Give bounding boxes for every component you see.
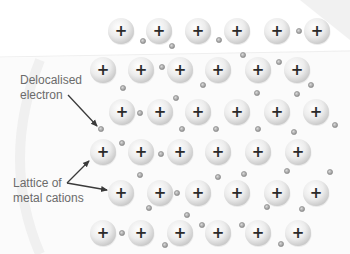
electron-icon — [200, 82, 205, 87]
cation-plus-sign: + — [135, 143, 148, 161]
cation-plus-sign: + — [192, 22, 205, 40]
electron-icon — [294, 91, 299, 96]
lattice-label-line1: Lattice of — [13, 176, 84, 191]
electron-icon — [158, 151, 163, 156]
electron-icon — [255, 126, 260, 131]
electron-icon — [173, 95, 178, 100]
cation-plus-sign: + — [271, 184, 284, 202]
cation-plus-sign: + — [310, 184, 323, 202]
cation-plus-sign: + — [271, 22, 284, 40]
cation-plus-sign: + — [311, 22, 324, 40]
cation-icon: + — [146, 18, 173, 45]
cation-plus-sign: + — [212, 61, 225, 79]
cation-icon: + — [264, 18, 291, 45]
electron-icon — [140, 38, 145, 43]
cation-plus-sign: + — [291, 61, 304, 79]
cation-plus-sign: + — [115, 184, 128, 202]
cation-plus-sign: + — [212, 143, 225, 161]
cation-plus-sign: + — [174, 61, 187, 79]
electron-icon — [216, 37, 221, 42]
electron-icon — [241, 171, 246, 176]
cation-plus-sign: + — [192, 103, 205, 121]
electron-icon — [119, 230, 124, 235]
electron-icon — [254, 90, 259, 95]
cation-plus-sign: + — [231, 103, 244, 121]
cation-plus-sign: + — [97, 143, 110, 161]
electron-icon — [213, 126, 218, 131]
electron-icon — [276, 59, 281, 64]
cation-icon: + — [224, 18, 251, 45]
delocalised-label-line1: Delocalised — [20, 73, 82, 88]
cation-plus-sign: + — [252, 224, 265, 242]
electron-icon — [119, 140, 124, 145]
cation-plus-sign: + — [154, 103, 167, 121]
cation-icon: + — [108, 18, 135, 45]
cation-plus-sign: + — [97, 61, 110, 79]
lattice-canvas: ++++++++++++++++++++++++++++++++++++ — [0, 0, 350, 254]
cation-plus-sign: + — [212, 224, 225, 242]
lattice-cations-label: Lattice of metal cations — [13, 176, 84, 206]
electron-icon — [137, 110, 142, 115]
electron-icon — [332, 122, 337, 127]
cation-plus-sign: + — [310, 103, 323, 121]
cation-plus-sign: + — [135, 224, 148, 242]
delocalised-electron-label: Delocalised electron — [20, 73, 82, 103]
electron-icon — [264, 204, 269, 209]
electron-icon — [98, 126, 103, 131]
cation-plus-sign: + — [252, 61, 265, 79]
electron-icon — [299, 206, 304, 211]
cation-plus-sign: + — [231, 184, 244, 202]
electron-icon — [120, 85, 125, 90]
cation-icon: + — [185, 18, 212, 45]
electron-icon — [239, 222, 244, 227]
cation-plus-sign: + — [252, 143, 265, 161]
cation-plus-sign: + — [271, 103, 284, 121]
cation-plus-sign: + — [153, 22, 166, 40]
electron-icon — [199, 222, 204, 227]
electron-icon — [284, 168, 289, 173]
electron-icon — [174, 190, 179, 195]
cation-plus-sign: + — [174, 224, 187, 242]
electron-icon — [162, 242, 167, 247]
cation-plus-sign: + — [135, 61, 148, 79]
electron-icon — [179, 126, 184, 131]
cation-plus-sign: + — [292, 224, 305, 242]
cation-plus-sign: + — [292, 143, 305, 161]
background-shapes — [0, 0, 350, 254]
delocalised-label-line2: electron — [20, 88, 82, 103]
electron-icon — [308, 82, 313, 87]
electron-icon — [169, 43, 174, 48]
electron-icon — [327, 169, 332, 174]
metallic-bonding-diagram: ++++++++++++++++++++++++++++++++++++ Del… — [0, 0, 350, 254]
electron-icon — [296, 28, 301, 33]
cation-plus-sign: + — [154, 184, 167, 202]
cation-plus-sign: + — [116, 103, 129, 121]
electron-icon — [146, 205, 151, 210]
lattice-label-line2: metal cations — [13, 191, 84, 206]
electron-icon — [291, 129, 296, 134]
cation-plus-sign: + — [231, 22, 244, 40]
electron-icon — [137, 172, 142, 177]
cation-icon: + — [304, 18, 331, 45]
electron-icon — [215, 174, 220, 179]
cation-plus-sign: + — [97, 224, 110, 242]
electron-icon — [159, 64, 164, 69]
cation-plus-sign: + — [174, 143, 187, 161]
electron-icon — [184, 212, 189, 217]
cation-plus-sign: + — [192, 184, 205, 202]
electron-icon — [278, 241, 283, 246]
cation-plus-sign: + — [115, 22, 128, 40]
electron-icon — [240, 52, 245, 57]
